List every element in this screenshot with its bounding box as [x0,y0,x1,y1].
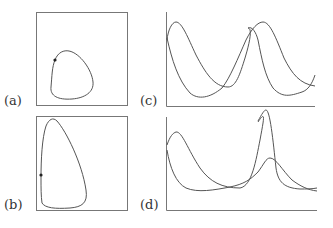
panel-a-label: (a) [4,93,22,108]
panel-b-orbit [41,119,86,208]
panel-b-marker [39,173,42,176]
panel-c-series-2 [167,22,315,97]
panel-b-label: (b) [4,197,22,212]
panel-d-series-2 [167,150,317,191]
panel-d-axes [167,117,318,211]
panel-d-label: (d) [140,197,158,212]
panel-c-series-1 [167,22,315,95]
panel-a-orbit [51,51,93,99]
panel-d-series-1 [167,110,317,189]
panel-c-label: (c) [140,93,157,108]
figure [0,0,333,228]
panel-b-frame [37,117,128,211]
panel-a-marker [53,58,56,61]
